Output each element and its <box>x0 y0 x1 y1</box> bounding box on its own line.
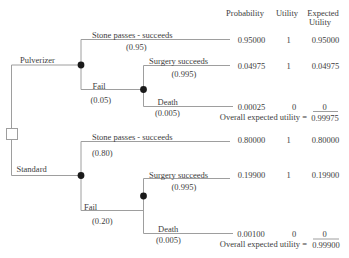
probability-column-header: Probability <box>226 9 264 18</box>
standard-surgery-probability-value: 0.19900 <box>238 171 266 180</box>
decision-node-square <box>7 129 18 140</box>
pulverizer-stone-expected-value: 0.95000 <box>312 36 340 45</box>
standard-stone-utility-value: 1 <box>286 136 290 145</box>
tree-lines <box>0 0 349 258</box>
standard-stone-label: Stone passes - succeeds <box>92 133 173 142</box>
pulverizer-fail-prob-label: (0.05) <box>91 96 112 105</box>
standard-stone-prob-label: (0.80) <box>92 149 113 158</box>
pulverizer-surgery-utility-value: 1 <box>286 62 290 71</box>
standard-chance-node <box>78 172 85 179</box>
pulverizer-death-prob-label: (0.005) <box>155 109 180 118</box>
standard-surgery-prob-label: (0.995) <box>172 183 197 192</box>
pulverizer-overall-value: 0.99975 <box>311 114 339 123</box>
pulverizer-death-label: Death <box>158 98 178 107</box>
pulverizer-stone-prob-label: (0.95) <box>126 43 147 52</box>
standard-surgery-chance-node <box>140 193 147 200</box>
standard-surgery-utility-value: 1 <box>286 171 290 180</box>
pulverizer-death-utility-value: 0 <box>292 103 296 112</box>
utility-column-header: Utility <box>276 9 298 18</box>
pulverizer-death-probability-value: 0.00025 <box>238 103 266 112</box>
pulverizer-stone-probability-value: 0.95000 <box>238 36 266 45</box>
standard-stone-expected-value: 0.80000 <box>312 136 340 145</box>
standard-death-utility-value: 0 <box>292 230 296 239</box>
pulverizer-chance-node <box>78 62 85 69</box>
standard-stone-probability-value: 0.80000 <box>238 136 266 145</box>
standard-death-prob-label: (0.005) <box>156 236 181 245</box>
standard-overall-value: 0.99900 <box>312 241 340 250</box>
decision-tree-diagram: Probability Utility Expected Utility Pul… <box>0 0 349 258</box>
standard-surgery-label: Surgery succeeds <box>149 171 208 180</box>
pulverizer-fail-label: Fail <box>93 82 106 91</box>
standard-death-expected-value: 0 <box>322 230 326 239</box>
pulverizer-stone-label: Stone passes - succeeds <box>92 31 173 40</box>
standard-fail-prob-label: (0.20) <box>92 217 113 226</box>
pulverizer-branch-label: Pulverizer <box>20 56 55 65</box>
standard-fail-label: Fail <box>84 203 97 212</box>
expected-utility-column-header-line2: Utility <box>309 18 331 27</box>
pulverizer-surgery-probability-value: 0.04975 <box>238 62 266 71</box>
pulverizer-stone-utility-value: 1 <box>286 36 290 45</box>
standard-death-label: Death <box>158 225 178 234</box>
pulverizer-surgery-chance-node <box>140 86 147 93</box>
pulverizer-overall-label: Overall expected utility = <box>220 113 307 122</box>
pulverizer-surgery-label: Surgery succeeds <box>149 57 208 66</box>
standard-overall-label: Overall expected utility = <box>220 240 307 249</box>
standard-death-probability-value: 0.00100 <box>237 230 265 239</box>
pulverizer-death-expected-value: 0 <box>322 103 326 112</box>
standard-branch-label: Standard <box>17 165 47 174</box>
pulverizer-surgery-expected-value: 0.04975 <box>312 62 340 71</box>
pulverizer-surgery-prob-label: (0.995) <box>172 70 197 79</box>
standard-surgery-expected-value: 0.19900 <box>312 171 340 180</box>
